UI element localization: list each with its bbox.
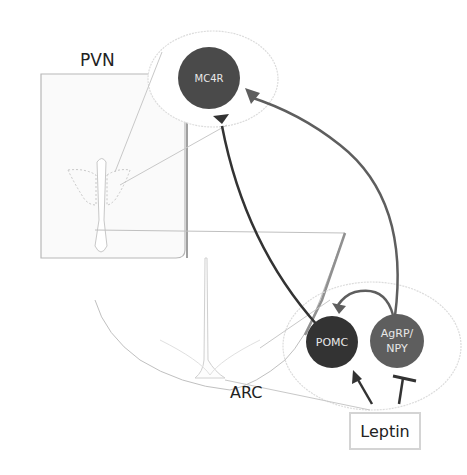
edge-agrp-to-pomc [338,291,393,315]
agrp-label-line2: NPY [370,342,424,355]
pomc-label: POMC [306,336,358,349]
mc4r-label: MC4R [180,72,238,85]
synapse-terminal-icon [332,303,346,314]
leptin-inhibition-line [399,378,403,404]
edge-agrp-to-mc4r [250,97,398,316]
pvn-label: PVN [80,50,115,70]
agrp-label-line1: AgRP/ [370,327,424,340]
leptin-activation-line [357,378,372,404]
leptin-box: Leptin [349,412,421,450]
arc-label: ARC [230,383,262,402]
inhibition-bar-icon [393,376,416,381]
node-agrp [370,314,424,368]
leptin-label: Leptin [360,422,410,441]
edge-pomc-to-mc4r [222,126,318,326]
